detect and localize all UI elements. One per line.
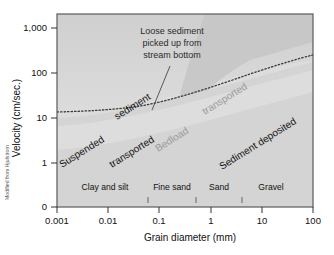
callout-line-3: stream bottom (143, 50, 201, 60)
callout-line-2: picked up from (142, 38, 201, 48)
callout-line-1: Loose sediment (140, 26, 204, 36)
x-tick-label-0.001: 0.001 (45, 215, 69, 226)
y-tick-label-0: 0 (42, 201, 47, 212)
hjulstrom-diagram-figure: 1,000 100 10 1 0 Velocity (cm/sec.) 0.00… (0, 0, 334, 255)
x-axis-ticks (57, 207, 313, 213)
category-label-fine-sand: Fine sand (153, 182, 191, 192)
category-label-clay-and-silt: Clay and silt (82, 182, 129, 192)
x-tick-label-0.1: 0.1 (152, 215, 165, 226)
y-tick-label-100: 100 (31, 67, 47, 78)
x-tick-label-10: 10 (257, 215, 268, 226)
x-tick-label-0.01: 0.01 (99, 215, 118, 226)
y-tick-label-1: 1 (42, 157, 47, 168)
x-axis-title: Grain diameter (mm) (144, 232, 236, 243)
category-label-gravel: Gravel (258, 182, 283, 192)
y-tick-label-1000: 1,000 (23, 22, 47, 33)
y-axis-ticks (51, 28, 57, 207)
x-tick-label-100: 100 (305, 215, 321, 226)
x-tick-label-1: 1 (208, 215, 213, 226)
y-tick-label-10: 10 (36, 112, 47, 123)
chart-canvas: 1,000 100 10 1 0 Velocity (cm/sec.) 0.00… (0, 0, 334, 255)
y-axis-title: Velocity (cm/sec.) (11, 79, 22, 157)
source-credit: Modified from Hjulstrom (4, 145, 10, 200)
category-label-sand: Sand (209, 182, 229, 192)
